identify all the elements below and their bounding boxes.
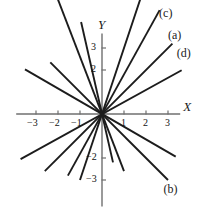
x-tick-label-1: −3 [27,117,38,128]
x-tick-label-2: −2 [49,117,60,128]
y-tick-label-1: 3 [91,41,96,52]
data-line-f [53,0,125,171]
x-tick-label-3: −1 [71,117,82,128]
x-tick-label-5: 2 [143,117,148,128]
curve-label-d: (d) [177,46,191,61]
x-tick-label-4: 1 [121,117,126,128]
x-axis-label: X [183,99,191,115]
y-axis-label: Y [98,17,105,33]
curve-label-a: (a) [168,28,181,43]
y-tick-label-2: 2 [91,63,96,74]
data-line-b [50,62,168,180]
coordinate-plot-figure: X Y −3−2−112332−2−3 (a)(b)(c)(d)(e)(f) [0,0,203,216]
data-line-a [45,44,173,172]
y-tick-label-3: −2 [86,151,97,162]
x-tick-label-6: 3 [165,117,170,128]
curve-label-b: (b) [164,182,178,197]
y-tick-label-4: −3 [86,173,97,184]
curve-label-c: (c) [159,6,172,21]
